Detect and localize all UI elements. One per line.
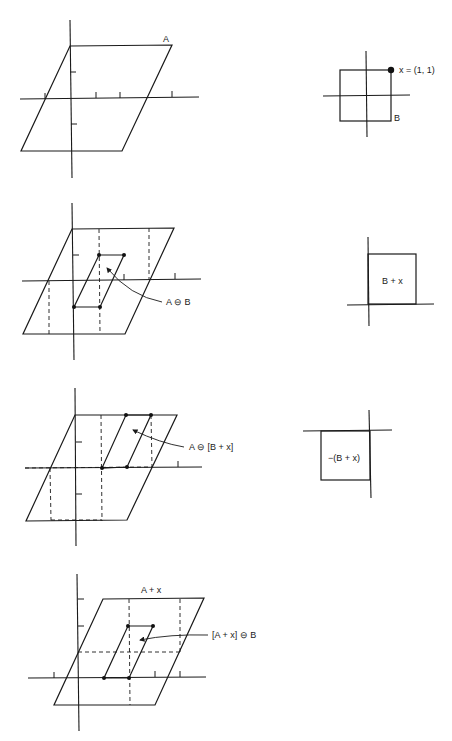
vertex-dot: [151, 624, 155, 628]
panel-3-right: −(B + x): [303, 410, 392, 498]
vertex-dot: [97, 253, 101, 257]
x-axis: [20, 97, 199, 99]
vertex-dot: [124, 413, 128, 417]
vertex-dot: [122, 253, 126, 257]
translated-a-label: A + x: [141, 585, 162, 595]
erosion-diagram: A x = (1, 1) B A ⊖ B B + x: [0, 0, 452, 741]
point-x-label: x = (1, 1): [399, 65, 435, 75]
panel-4-left: A + x [A + x] ⊖ B: [28, 574, 256, 731]
set-a-label: A: [163, 34, 169, 44]
reflected-b-label: −(B + x): [328, 453, 360, 463]
vertex-dot: [149, 413, 153, 417]
y-axis: [75, 388, 76, 546]
translated-b-label: B + x: [382, 276, 403, 286]
vertex-dot: [125, 465, 129, 469]
vertex-dot: [102, 676, 106, 680]
x-axis: [323, 95, 410, 96]
erosion-result-parallelogram: [74, 255, 124, 307]
vertex-dot: [100, 466, 104, 470]
panel-2-left: A ⊖ B: [22, 203, 201, 360]
tick-marks: [54, 599, 180, 678]
vertex-dot: [98, 305, 102, 309]
erosion-translated-label: A ⊖ [B + x]: [189, 442, 233, 452]
panel-1-left: A: [20, 20, 199, 178]
panel-1-right: x = (1, 1) B: [323, 51, 435, 137]
vertex-dot: [126, 624, 130, 628]
y-axis: [72, 203, 74, 360]
pointer-arrow: [140, 635, 208, 640]
point-x-dot: [388, 67, 394, 73]
vertex-dot: [72, 305, 76, 309]
panel-2-right: B + x: [347, 237, 434, 326]
dashed-guide: [99, 229, 100, 334]
translated-erosion-label: [A + x] ⊖ B: [212, 630, 256, 640]
dashed-guide: [50, 468, 51, 520]
erosion-label: A ⊖ B: [166, 297, 191, 307]
set-b-label: B: [394, 113, 400, 123]
dashed-guide: [151, 415, 152, 467]
y-axis: [366, 51, 367, 137]
erosion-result-parallelogram: [102, 415, 151, 468]
y-axis: [70, 20, 72, 178]
vertex-dot: [127, 676, 131, 680]
panel-3-left: A ⊖ [B + x]: [25, 388, 233, 546]
